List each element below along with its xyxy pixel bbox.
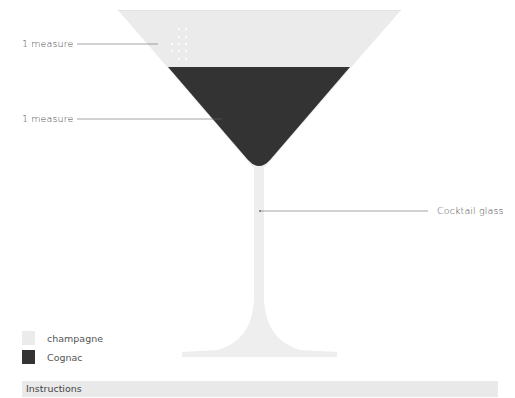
instructions-title: Instructions xyxy=(26,383,82,394)
legend-item-champagne: champagne xyxy=(22,330,103,346)
cognac-swatch xyxy=(22,350,35,364)
cognac-layer xyxy=(168,67,350,166)
glass-stem xyxy=(182,166,337,357)
champagne-swatch xyxy=(22,331,35,345)
cognac-amount-label: 1 measure xyxy=(22,113,73,124)
legend-label: champagne xyxy=(47,333,103,344)
instructions-header[interactable]: Instructions xyxy=(22,381,498,397)
champagne-amount-label: 1 measure xyxy=(22,38,73,49)
legend-label: Cognac xyxy=(47,352,83,363)
glass-type-label: Cocktail glass xyxy=(437,205,503,216)
legend-item-cognac: Cognac xyxy=(22,349,83,365)
